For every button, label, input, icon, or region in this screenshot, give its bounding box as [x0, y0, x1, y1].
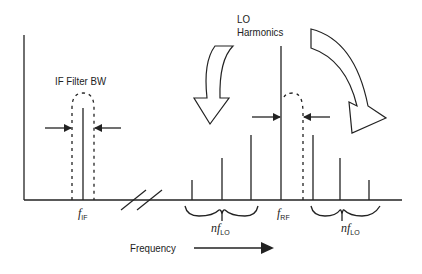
f-if-label: fIF — [78, 207, 88, 221]
nf-lo-right-label: nfLO — [341, 222, 360, 236]
spectral-lines — [83, 46, 369, 200]
brace-right-icon — [311, 206, 380, 221]
f-rf-label: fRF — [277, 207, 290, 221]
rf-filter-passband — [283, 93, 303, 200]
lo-harmonics-arrow-down-icon — [194, 46, 233, 124]
lo-label-line1: LO — [237, 13, 250, 25]
if-filter-bw-label: IF Filter BW — [55, 75, 106, 87]
nf-lo-left-label: nfLO — [211, 222, 230, 236]
brace-left-icon — [185, 206, 258, 221]
frequency-label: Frequency — [130, 242, 176, 254]
lo-label-line2: Harmonics — [237, 26, 283, 38]
